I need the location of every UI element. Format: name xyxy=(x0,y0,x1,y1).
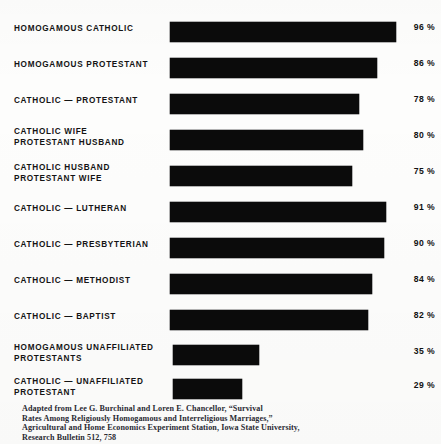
chart-row-9: HOMOGAMOUS UNAFFILIATED PROTESTANTS 35 % xyxy=(0,342,441,378)
chart-row-8: CATHOLIC — BAPTIST 82 % xyxy=(0,306,441,342)
chart-bar-track xyxy=(170,130,363,150)
chart-bar xyxy=(170,238,384,258)
caption-line-4: Research Bulletin 512, 758 xyxy=(22,433,332,443)
chart-bar xyxy=(170,58,377,78)
chart-row-2: CATHOLIC — PROTESTANT 78 % xyxy=(0,90,441,126)
chart-row-0: HOMOGAMOUS CATHOLIC 96 % xyxy=(0,18,441,54)
chart-bar xyxy=(170,22,396,42)
chart-row-3: CATHOLIC WIFE PROTESTANT HUSBAND 80 % xyxy=(0,126,441,162)
caption-line-2: Rates Among Religiously Homogamous and I… xyxy=(22,414,332,424)
chart-row-value: 90 % xyxy=(395,238,435,248)
chart-bar-track xyxy=(170,166,352,186)
chart-row-label: CATHOLIC — UNAFFILIATED PROTESTANT xyxy=(14,377,174,398)
chart-row-label: CATHOLIC HUSBAND PROTESTANT WIFE xyxy=(14,163,184,184)
chart-bar-track xyxy=(170,22,396,42)
chart-row-label: HOMOGAMOUS CATHOLIC xyxy=(14,24,184,35)
chart-row-value: 96 % xyxy=(395,22,435,32)
caption-line-1: Adapted from Lee G. Burchinal and Loren … xyxy=(22,404,332,414)
chart-row-1: HOMOGAMOUS PROTESTANT 86 % xyxy=(0,54,441,90)
chart-row-label: HOMOGAMOUS PROTESTANT xyxy=(14,60,184,71)
chart-bar-track xyxy=(170,202,386,222)
chart-row-value: 84 % xyxy=(395,274,435,284)
chart-row-value: 75 % xyxy=(395,166,435,176)
chart-bar xyxy=(170,130,363,150)
chart-row-value: 80 % xyxy=(395,130,435,140)
chart-row-value: 78 % xyxy=(395,94,435,104)
chart-row-label: HOMOGAMOUS UNAFFILIATED PROTESTANTS xyxy=(14,343,174,364)
chart-row-label: CATHOLIC WIFE PROTESTANT HUSBAND xyxy=(14,127,184,148)
chart-bar-track xyxy=(173,345,259,365)
chart-row-7: CATHOLIC — METHODIST 84 % xyxy=(0,270,441,306)
chart-row-value: 91 % xyxy=(395,202,435,212)
chart-bar xyxy=(170,94,359,114)
caption-line-3: Agricultural and Home Economics Experime… xyxy=(22,423,332,433)
chart-row-6: CATHOLIC — PRESBYTERIAN 90 % xyxy=(0,234,441,270)
figure-bar-chart: HOMOGAMOUS CATHOLIC 96 % HOMOGAMOUS PROT… xyxy=(0,0,441,444)
chart-row-value: 29 % xyxy=(395,380,435,390)
chart-bar xyxy=(170,202,386,222)
chart-bar-track xyxy=(170,310,368,330)
chart-row-label: CATHOLIC — PRESBYTERIAN xyxy=(14,240,184,251)
chart-row-5: CATHOLIC — LUTHERAN 91 % xyxy=(0,198,441,234)
chart-row-value: 86 % xyxy=(395,58,435,68)
chart-bar xyxy=(173,379,242,399)
chart-bar-track xyxy=(170,94,359,114)
chart-bar-track xyxy=(170,238,384,258)
chart-row-value: 82 % xyxy=(395,310,435,320)
figure-source-caption: Adapted from Lee G. Burchinal and Loren … xyxy=(22,404,332,442)
chart-row-4: CATHOLIC HUSBAND PROTESTANT WIFE 75 % xyxy=(0,162,441,198)
chart-row-label: CATHOLIC — PROTESTANT xyxy=(14,96,184,107)
chart-bar-track xyxy=(170,58,377,78)
chart-row-value: 35 % xyxy=(395,346,435,356)
chart-row-label: CATHOLIC — METHODIST xyxy=(14,276,184,287)
chart-bar-track xyxy=(170,274,372,294)
chart-bar-track xyxy=(173,379,242,399)
chart-bar xyxy=(173,345,259,365)
chart-bar xyxy=(170,310,368,330)
chart-bar xyxy=(170,166,352,186)
chart-plot-area: HOMOGAMOUS CATHOLIC 96 % HOMOGAMOUS PROT… xyxy=(0,0,441,400)
chart-bar xyxy=(170,274,372,294)
chart-row-label: CATHOLIC — BAPTIST xyxy=(14,312,184,323)
chart-row-label: CATHOLIC — LUTHERAN xyxy=(14,204,184,215)
